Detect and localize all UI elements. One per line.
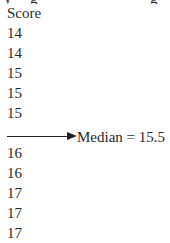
score-value: 15 (7, 64, 22, 82)
score-value: 14 (7, 24, 22, 42)
right-arrow-icon (7, 136, 69, 137)
column-header-score: Score (7, 4, 41, 22)
score-value: 17 (7, 184, 22, 202)
median-label: Median = 15.5 (77, 128, 165, 146)
score-value: 15 (7, 84, 22, 102)
score-value: 15 (7, 104, 22, 122)
score-value: 16 (7, 144, 22, 162)
score-value: 17 (7, 204, 22, 222)
score-value: 14 (7, 44, 22, 62)
arrow-head-icon (67, 132, 77, 140)
median-marker: Median = 15.5 (7, 128, 170, 146)
score-value: 17 (7, 224, 22, 242)
score-value: 16 (7, 164, 22, 182)
